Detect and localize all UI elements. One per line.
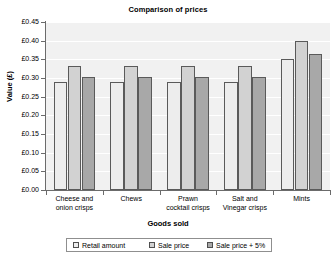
bar bbox=[138, 77, 152, 190]
y-tick-label: £0.10 bbox=[0, 149, 39, 156]
bar bbox=[281, 59, 295, 190]
bar bbox=[252, 77, 266, 190]
bar bbox=[224, 82, 238, 190]
x-axis-line bbox=[45, 190, 331, 191]
chart-title: Comparison of prices bbox=[0, 5, 336, 14]
y-tick-label: £0.35 bbox=[0, 55, 39, 62]
bar bbox=[68, 66, 82, 190]
x-axis-label-line: Vinegar crisps bbox=[210, 204, 279, 213]
legend-label: Sale price bbox=[158, 242, 189, 249]
legend-label: Retail amount bbox=[82, 242, 125, 249]
bar bbox=[110, 82, 124, 190]
chart-legend: Retail amountSale priceSale price + 5% bbox=[66, 238, 272, 252]
bar bbox=[124, 66, 138, 190]
y-tick-label: £0.20 bbox=[0, 111, 39, 118]
bars-layer bbox=[46, 22, 330, 190]
bar-chart: Comparison of prices Value (£) £0.00£0.0… bbox=[0, 0, 336, 257]
legend-label: Sale price + 5% bbox=[216, 242, 265, 249]
y-tick-label: £0.05 bbox=[0, 167, 39, 174]
x-axis-label-line: Mints bbox=[267, 195, 336, 204]
legend-swatch-icon bbox=[207, 242, 213, 248]
bar bbox=[167, 82, 181, 190]
x-axis-title: Goods sold bbox=[0, 219, 336, 228]
bar bbox=[181, 66, 195, 190]
legend-item: Sale price + 5% bbox=[207, 242, 265, 249]
y-tick-label: £0.40 bbox=[0, 37, 39, 44]
x-axis-label: Mints bbox=[267, 195, 336, 204]
bar bbox=[295, 41, 309, 190]
legend-swatch-icon bbox=[149, 242, 155, 248]
legend-swatch-icon bbox=[73, 242, 79, 248]
bar bbox=[82, 77, 96, 190]
y-tick-label: £0.30 bbox=[0, 74, 39, 81]
bar bbox=[238, 66, 252, 190]
legend-item: Sale price bbox=[149, 242, 189, 249]
x-axis-label-line: onion crisps bbox=[40, 204, 109, 213]
y-tick-label: £0.00 bbox=[0, 186, 39, 193]
legend-item: Retail amount bbox=[73, 242, 125, 249]
y-tick-label: £0.25 bbox=[0, 93, 39, 100]
y-tick-label: £0.15 bbox=[0, 130, 39, 137]
bar bbox=[195, 77, 209, 190]
y-tick-label: £0.45 bbox=[0, 18, 39, 25]
bar bbox=[54, 82, 68, 190]
bar bbox=[309, 54, 323, 190]
